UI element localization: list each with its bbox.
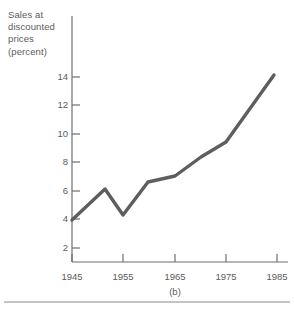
x-axis-ticks xyxy=(72,254,277,262)
ytick-label-8: 8 xyxy=(42,157,68,167)
ytick-label-2: 2 xyxy=(42,243,68,253)
xtick-label-1965: 1965 xyxy=(154,272,196,282)
figure-panel-b: Sales at discounted prices (percent) 14 … xyxy=(0,0,294,316)
xtick-label-1985: 1985 xyxy=(256,272,294,282)
xtick-label-1955: 1955 xyxy=(102,272,144,282)
ytick-label-10: 10 xyxy=(42,129,68,139)
panel-caption: (b) xyxy=(155,286,195,297)
y-axis-ticks xyxy=(72,77,80,248)
ytick-label-4: 4 xyxy=(42,214,68,224)
xtick-label-1975: 1975 xyxy=(205,272,247,282)
ytick-label-14: 14 xyxy=(42,72,68,82)
xtick-label-1945: 1945 xyxy=(51,272,93,282)
data-series-line xyxy=(72,75,274,220)
y-axis-title: Sales at discounted prices (percent) xyxy=(8,9,80,58)
ytick-label-6: 6 xyxy=(42,186,68,196)
ytick-label-12: 12 xyxy=(42,100,68,110)
